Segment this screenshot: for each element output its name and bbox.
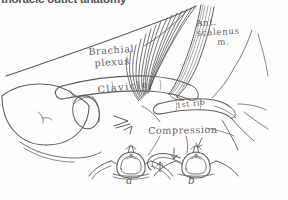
anatomy-figure: thoracic outlet anatomy Brachial plexus … — [0, 0, 288, 200]
first-rib — [153, 99, 235, 118]
anatomy-line-drawing — [0, 0, 288, 200]
humeral-head — [69, 92, 102, 131]
inset-b-cervical-rib — [147, 138, 238, 178]
compression-arrowheads — [114, 116, 132, 134]
